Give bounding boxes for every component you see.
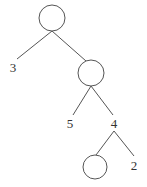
edge-4-to-bottom [96, 131, 114, 155]
leaf-label-2: 2 [131, 158, 138, 173]
tree-diagram: 3 5 4 2 [0, 0, 147, 187]
inner-node-circle [78, 60, 104, 86]
root-node-circle [39, 5, 65, 31]
edge-inner-to-5 [73, 86, 91, 115]
edge-inner-to-4 [91, 86, 113, 115]
edge-root-to-3 [17, 31, 52, 59]
leaf-label-3: 3 [10, 60, 17, 75]
leaf-label-5: 5 [67, 116, 74, 131]
bottom-node-circle [83, 155, 107, 179]
node-label-4: 4 [111, 116, 118, 131]
edge-4-to-2 [114, 131, 134, 156]
edge-root-to-inner [52, 31, 86, 61]
